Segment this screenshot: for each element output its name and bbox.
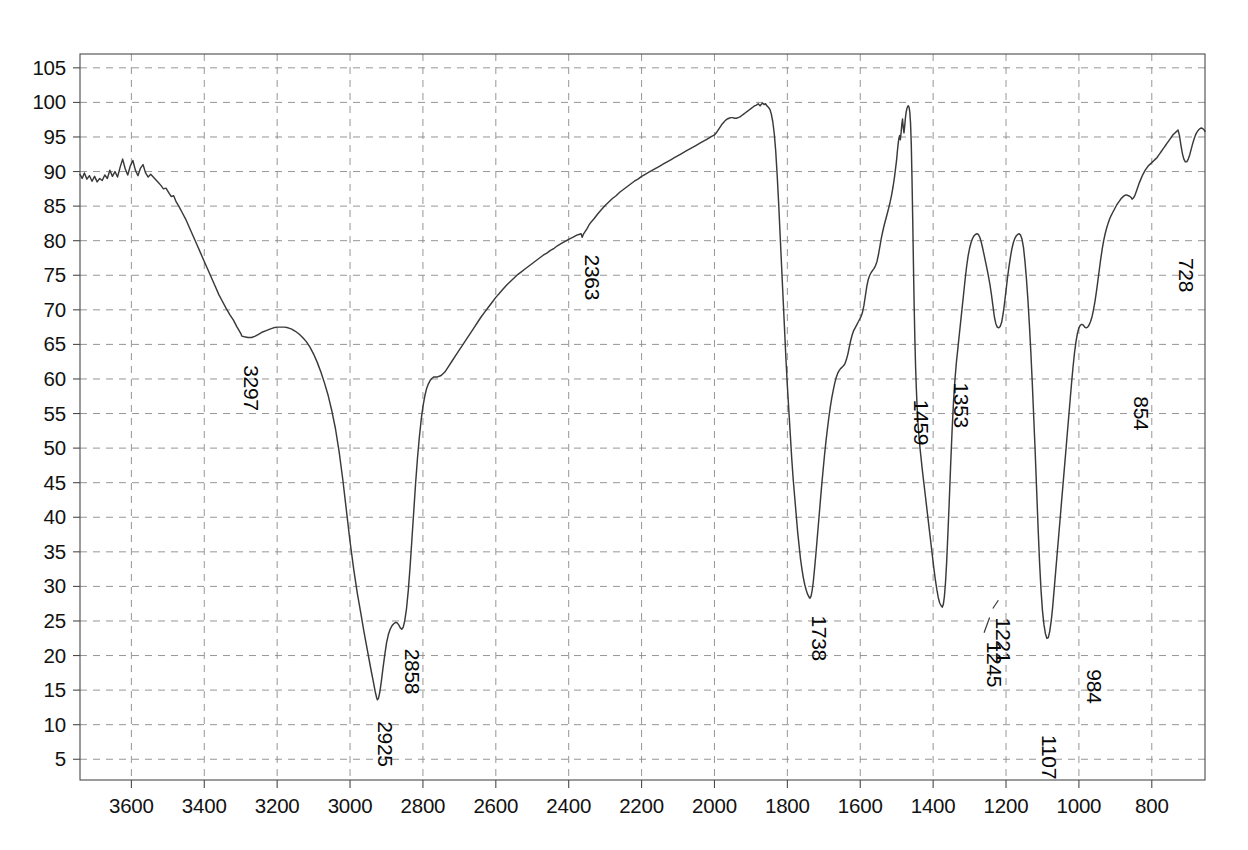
- y-tick-label: 95: [44, 125, 66, 148]
- peak-label-text: 1738: [808, 615, 831, 661]
- x-tick-label: 2000: [692, 794, 737, 817]
- x-tick-label: 2200: [619, 794, 664, 817]
- x-tick-label: 2800: [401, 794, 446, 817]
- peak-label-group: 2925: [374, 721, 397, 767]
- peak-label-group: 3297: [240, 365, 263, 411]
- y-tick-label: 25: [44, 609, 66, 632]
- y-tick-label: 50: [44, 436, 66, 459]
- peak-label-group: 1107: [1038, 735, 1061, 779]
- y-tick-label: 105: [32, 56, 66, 79]
- x-tick-label: 3200: [255, 794, 300, 817]
- peak-label-group: 2363: [581, 255, 604, 301]
- peak-label-text: 3297: [240, 365, 263, 411]
- peak-label-text: 1221: [992, 618, 1015, 664]
- peak-label-group: 2858: [401, 649, 424, 695]
- x-tick-label: 3600: [109, 794, 154, 817]
- y-tick-label: 5: [55, 747, 66, 770]
- y-tick-label: 40: [44, 505, 66, 528]
- x-tick-label: 2400: [546, 794, 591, 817]
- x-tick-label: 3400: [182, 794, 227, 817]
- x-tick-label: 1400: [911, 794, 956, 817]
- x-tick-label: 1000: [1057, 794, 1102, 817]
- ir-spectrum-chart: 5101520253035404550556065707580859095100…: [0, 0, 1248, 850]
- y-tick-label: 30: [44, 574, 66, 597]
- peak-label-text: 1353: [950, 382, 973, 428]
- y-tick-label: 85: [44, 194, 66, 217]
- x-tick-label: 1800: [765, 794, 810, 817]
- peak-label-group: 1221: [992, 618, 1015, 664]
- x-tick-label: 800: [1135, 794, 1169, 817]
- y-tick-label: 20: [44, 644, 66, 667]
- x-tick-label: 3000: [328, 794, 373, 817]
- y-tick-label: 70: [44, 298, 66, 321]
- peak-label-text: 2925: [374, 721, 397, 767]
- y-tick-label: 55: [44, 402, 66, 425]
- y-tick-label: 60: [44, 367, 66, 390]
- y-tick-label: 75: [44, 263, 66, 286]
- peak-label-group: 1353: [950, 382, 973, 428]
- y-tick-label: 35: [44, 540, 66, 563]
- peak-label-group: 1738: [808, 615, 831, 661]
- y-tick-label: 100: [32, 90, 66, 113]
- peak-label-text: 2858: [401, 649, 424, 695]
- y-tick-label: 45: [44, 471, 66, 494]
- x-tick-label: 2600: [473, 794, 518, 817]
- peak-label-group: 728: [1175, 258, 1198, 292]
- x-tick-label: 1200: [984, 794, 1029, 817]
- peak-label-group: 854: [1130, 396, 1153, 431]
- y-tick-label: 65: [44, 332, 66, 355]
- spectrum-svg: 5101520253035404550556065707580859095100…: [0, 0, 1248, 850]
- peak-label-group: 1459: [910, 400, 933, 446]
- peak-label-text: 728: [1175, 258, 1198, 292]
- y-tick-label: 10: [44, 713, 66, 736]
- x-tick-label: 1600: [838, 794, 883, 817]
- peak-label-text: 854: [1130, 396, 1153, 431]
- peak-label-text: 1107: [1038, 735, 1061, 779]
- peak-label-group: 984: [1083, 669, 1106, 704]
- peak-label-text: 984: [1083, 669, 1106, 704]
- y-tick-label: 15: [44, 678, 66, 701]
- chart-background: [0, 0, 1248, 850]
- y-tick-label: 90: [44, 160, 66, 183]
- peak-label-text: 2363: [581, 255, 604, 301]
- y-tick-label: 80: [44, 229, 66, 252]
- peak-label-text: 1459: [910, 400, 933, 446]
